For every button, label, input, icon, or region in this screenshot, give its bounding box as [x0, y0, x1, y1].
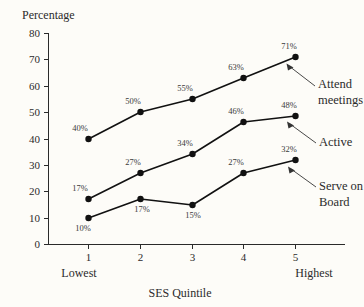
chart-container: Percentage 80 70 60 50 40 30 20 10 0 1 2… — [0, 0, 364, 307]
line-chart: Percentage 80 70 60 50 40 30 20 10 0 1 2… — [0, 0, 364, 307]
series-point-attend-1 — [85, 136, 91, 142]
x-tick-label-5: 5 — [293, 251, 299, 263]
x-tick-label-1: 1 — [86, 251, 92, 263]
callout-leader-serve-on-board — [291, 169, 316, 187]
series-label-serve-on-board-line1: Serve on — [319, 179, 364, 193]
series-point-active-4 — [240, 119, 246, 125]
series-point-active-1 — [85, 196, 91, 202]
y-axis-title: Percentage — [22, 8, 75, 22]
y-tick-label-20: 20 — [29, 185, 41, 197]
y-tick-label-30: 30 — [29, 159, 41, 171]
series-label-attend-meetings-line2: meetings — [318, 93, 363, 107]
series-point-serve-5 — [292, 157, 298, 163]
series-point-serve-3 — [189, 202, 195, 208]
x-axis-anchor-highest: Highest — [295, 266, 333, 280]
x-tick-label-3: 3 — [190, 251, 196, 263]
callout-leader-attend-meetings — [289, 66, 315, 86]
series-point-attend-5 — [292, 54, 298, 60]
x-tick-label-4: 4 — [241, 251, 247, 263]
series-point-label-serve-1: 10% — [75, 223, 91, 233]
series-point-serve-4 — [240, 170, 246, 176]
series-point-label-active-3: 34% — [177, 138, 193, 148]
series-line-active — [89, 116, 296, 199]
series-label-attend-meetings-line1: Attend — [318, 77, 353, 91]
x-tick-label-2: 2 — [138, 251, 144, 263]
y-tick-label-60: 60 — [29, 80, 41, 92]
series-point-label-active-1: 17% — [72, 183, 88, 193]
series-point-attend-3 — [189, 96, 195, 102]
y-tick-label-40: 40 — [29, 133, 41, 145]
series-point-serve-1 — [85, 215, 91, 221]
series-point-label-active-5: 48% — [281, 100, 297, 110]
y-tick-label-80: 80 — [29, 27, 41, 39]
series-point-active-2 — [137, 170, 143, 176]
y-tick-label-0: 0 — [35, 238, 41, 250]
series-label-active: Active — [319, 135, 353, 149]
y-tick-label-10: 10 — [29, 212, 41, 224]
series-point-label-attend-4: 63% — [228, 62, 244, 72]
series-point-label-active-2: 27% — [125, 157, 141, 167]
series-point-active-5 — [292, 113, 298, 119]
series-point-serve-2 — [137, 196, 143, 202]
series-point-attend-2 — [137, 109, 143, 115]
series-point-label-attend-3: 55% — [177, 83, 193, 93]
series-point-active-3 — [189, 151, 195, 157]
series-point-attend-4 — [240, 75, 246, 81]
y-tick-label-50: 50 — [29, 106, 41, 118]
series-point-label-active-4: 46% — [228, 106, 244, 116]
series-point-label-attend-2: 50% — [125, 96, 141, 106]
series-label-serve-on-board-line2: Board — [319, 195, 350, 209]
callout-leader-active — [290, 124, 316, 143]
series-point-label-serve-4: 27% — [228, 157, 244, 167]
callout-arrowhead-attend-meetings — [287, 64, 294, 71]
series-point-label-serve-5: 32% — [281, 144, 297, 154]
x-axis-title: SES Quintile — [148, 286, 211, 300]
series-point-label-serve-3: 15% — [185, 210, 201, 220]
callout-arrowhead-serve-on-board — [288, 167, 295, 174]
y-tick-label-70: 70 — [29, 53, 41, 65]
series-point-label-attend-5: 71% — [281, 41, 297, 51]
series-point-label-serve-2: 17% — [134, 204, 150, 214]
x-axis-anchor-lowest: Lowest — [61, 266, 97, 280]
callout-arrowhead-active — [287, 122, 294, 129]
series-point-label-attend-1: 40% — [72, 123, 88, 133]
